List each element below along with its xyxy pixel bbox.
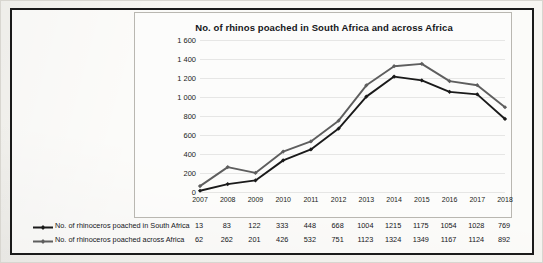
y-axis-tick-label: 1 000 xyxy=(154,93,196,102)
data-table-cell: 448 xyxy=(304,221,316,230)
x-axis-tick-labels: 2007200820092010201120122013201420152016… xyxy=(200,196,505,208)
gridline xyxy=(200,192,505,193)
data-table-cell: 262 xyxy=(221,235,233,244)
data-table-cell: 1004 xyxy=(357,221,373,230)
page-border: No. of rhinos poached in South Africa an… xyxy=(10,8,534,255)
data-table-cell: 892 xyxy=(498,235,510,244)
y-axis-tick-label: 0 xyxy=(154,188,196,197)
x-axis-tick-label: 2018 xyxy=(497,196,513,203)
chart-title: No. of rhinos poached in South Africa an… xyxy=(135,22,513,33)
data-table-cell: 1054 xyxy=(440,221,456,230)
x-axis-tick-label: 2008 xyxy=(220,196,236,203)
y-axis-tick-label: 1 400 xyxy=(154,55,196,64)
series-lines xyxy=(200,40,505,192)
chart-container: No. of rhinos poached in South Africa an… xyxy=(134,12,512,218)
data-table-cell: 1167 xyxy=(441,235,457,244)
x-axis-tick-label: 2011 xyxy=(303,196,318,203)
data-point-marker xyxy=(226,182,230,186)
data-table-cell: 769 xyxy=(498,221,510,230)
x-axis-tick-label: 2015 xyxy=(414,196,430,203)
data-table-cell: 62 xyxy=(195,235,203,244)
data-table-cell: 1349 xyxy=(413,235,429,244)
data-table-cell: 1324 xyxy=(385,235,401,244)
data-table-cell: 751 xyxy=(332,235,344,244)
x-axis-tick-label: 2010 xyxy=(275,196,291,203)
series-line xyxy=(200,77,505,191)
data-table-cell: 1124 xyxy=(468,235,484,244)
legend-table-row: No. of rhinoceros poached across Africa6… xyxy=(28,234,528,247)
y-axis-tick-label: 800 xyxy=(154,112,196,121)
x-axis-tick-label: 2013 xyxy=(359,196,375,203)
x-axis-tick-label: 2016 xyxy=(442,196,458,203)
y-axis-tick-label: 1 600 xyxy=(154,36,196,45)
y-axis-tick-label: 200 xyxy=(154,169,196,178)
x-axis-tick-label: 2009 xyxy=(248,196,264,203)
plot-area xyxy=(200,40,505,192)
x-axis-tick-label: 2017 xyxy=(469,196,485,203)
data-table-cell: 1175 xyxy=(413,221,429,230)
x-axis-tick-label: 2007 xyxy=(192,196,208,203)
x-axis-tick-label: 2012 xyxy=(331,196,347,203)
legend-label: No. of rhinoceros poached in South Afric… xyxy=(55,221,190,230)
x-axis-tick-label: 2014 xyxy=(386,196,402,203)
data-table-cell: 201 xyxy=(248,235,260,244)
data-table-cell: 668 xyxy=(332,221,344,230)
data-table-cell: 83 xyxy=(223,221,231,230)
series-line xyxy=(200,64,505,186)
legend-table-row: No. of rhinoceros poached in South Afric… xyxy=(28,220,528,233)
y-axis-tick-label: 400 xyxy=(154,150,196,159)
data-table-cell: 122 xyxy=(248,221,260,230)
data-table-cell: 426 xyxy=(276,235,288,244)
data-table-cell: 1215 xyxy=(385,221,401,230)
y-axis-tick-labels: 02004006008001 0001 2001 4001 600 xyxy=(151,40,196,192)
data-table-cell: 1123 xyxy=(358,235,374,244)
legend-swatch-icon xyxy=(32,234,54,247)
y-axis-tick-label: 1 200 xyxy=(154,74,196,83)
legend-swatch-icon xyxy=(32,220,54,233)
y-axis-tick-label: 600 xyxy=(154,131,196,140)
data-table-cell: 1028 xyxy=(468,221,484,230)
data-table-cell: 13 xyxy=(195,221,203,230)
legend-data-table: No. of rhinoceros poached in South Afric… xyxy=(28,220,528,254)
data-table-cell: 532 xyxy=(304,235,316,244)
data-table-cell: 333 xyxy=(276,221,288,230)
legend-label: No. of rhinoceros poached across Africa xyxy=(55,235,184,244)
scanned-page: No. of rhinos poached in South Africa an… xyxy=(0,0,543,263)
